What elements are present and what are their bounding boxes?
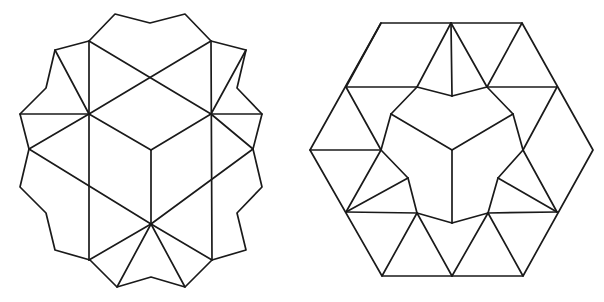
edge-line: [211, 41, 212, 260]
edge-line: [381, 114, 391, 150]
edge-line: [346, 87, 381, 150]
edge-line: [488, 178, 498, 213]
edge-line: [513, 114, 523, 150]
edge-line: [346, 212, 417, 213]
edge-line: [417, 213, 452, 276]
outline-polygon: [20, 14, 262, 287]
left-dodecagon-tiling: [20, 14, 262, 287]
edge-line: [498, 150, 523, 178]
edge-line: [452, 114, 513, 150]
edge-line: [29, 114, 89, 149]
edge-line: [487, 23, 522, 87]
edge-line: [417, 23, 451, 87]
right-hexagon-tiling: [310, 23, 593, 276]
edge-line: [488, 213, 523, 276]
edge-line: [211, 50, 246, 114]
edge-line: [29, 149, 151, 224]
edge-line: [55, 50, 89, 114]
edge-line: [451, 23, 487, 87]
edge-line: [382, 213, 417, 276]
geometric-tilings-figure: [0, 0, 604, 302]
edge-line: [89, 114, 151, 150]
edge-line: [452, 213, 488, 276]
edge-line: [488, 212, 557, 213]
edge-line: [381, 150, 408, 178]
edge-line: [408, 178, 417, 213]
edge-line: [417, 87, 452, 96]
edge-line: [452, 87, 487, 96]
edge-line: [451, 23, 452, 96]
edge-line: [346, 23, 381, 87]
edge-line: [391, 87, 417, 114]
edge-line: [391, 114, 452, 150]
edge-line: [211, 114, 253, 149]
edge-line: [487, 87, 513, 114]
edge-line: [151, 114, 211, 150]
edge-line: [523, 87, 557, 150]
